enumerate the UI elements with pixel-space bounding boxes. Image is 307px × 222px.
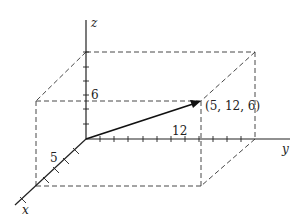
y-tick-label: 12: [172, 124, 187, 138]
z-tick-label: 6: [91, 88, 99, 102]
vector-diagram: z y x 6 12 5 (5, 12, 6): [0, 0, 307, 222]
z-axis-label: z: [90, 16, 98, 30]
x-axis-label: x: [22, 203, 29, 217]
point-label: (5, 12, 6): [205, 99, 260, 113]
arrowhead-icon: [190, 100, 201, 108]
x-axis: [15, 139, 86, 205]
y-axis-label: y: [281, 142, 289, 156]
x-tick-label: 5: [50, 151, 58, 165]
